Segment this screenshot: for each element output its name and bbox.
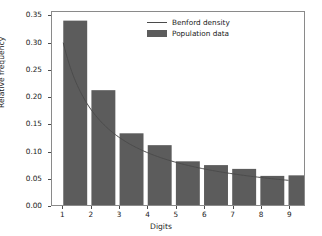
x-tick-label: 8: [259, 211, 264, 218]
x-tick-mark: [62, 206, 63, 209]
bar: [120, 133, 144, 205]
y-tick-label: 0.30: [8, 39, 42, 46]
benford-chart-figure: 0.000.050.100.150.200.250.300.35 1234567…: [0, 0, 322, 236]
bar: [91, 90, 115, 205]
y-tick-mark: [48, 15, 51, 16]
y-tick-label: 0.15: [8, 121, 42, 128]
y-tick-mark: [48, 206, 51, 207]
x-axis-label: Digits: [0, 222, 322, 231]
x-tick-label: 2: [88, 211, 93, 218]
chart-legend: Benford density Population data: [142, 13, 236, 43]
legend-label: Population data: [172, 30, 229, 37]
x-tick-label: 7: [230, 211, 235, 218]
bar: [260, 176, 284, 205]
y-tick-mark: [48, 152, 51, 153]
y-tick-label: 0.20: [8, 93, 42, 100]
legend-item-population-data: Population data: [147, 28, 230, 39]
y-tick-mark: [48, 179, 51, 180]
x-tick-label: 1: [60, 211, 65, 218]
x-tick-mark: [233, 206, 234, 209]
x-tick-label: 5: [174, 211, 179, 218]
y-tick-mark: [48, 97, 51, 98]
bar: [289, 175, 304, 205]
legend-line-swatch-icon: [147, 18, 167, 27]
y-tick-label: 0.35: [8, 12, 42, 19]
bar-series-population-data: [63, 21, 304, 205]
x-tick-mark: [91, 206, 92, 209]
bar: [176, 161, 200, 205]
y-tick-label: 0.25: [8, 66, 42, 73]
x-tick-mark: [119, 206, 120, 209]
y-tick-label: 0.05: [8, 175, 42, 182]
x-tick-mark: [204, 206, 205, 209]
x-tick-label: 3: [117, 211, 122, 218]
x-tick-label: 4: [145, 211, 150, 218]
x-tick-label: 9: [287, 211, 292, 218]
x-tick-mark: [147, 206, 148, 209]
y-axis-label: Relative frequency: [0, 37, 6, 108]
y-tick-label: 0.10: [8, 148, 42, 155]
y-tick-mark: [48, 43, 51, 44]
x-tick-mark: [261, 206, 262, 209]
y-tick-label: 0.00: [8, 202, 42, 209]
legend-label: Benford density: [172, 19, 230, 26]
y-tick-mark: [48, 70, 51, 71]
x-tick-mark: [289, 206, 290, 209]
x-tick-label: 6: [202, 211, 207, 218]
legend-patch-swatch-icon: [147, 30, 167, 37]
x-tick-mark: [176, 206, 177, 209]
legend-item-benford-density: Benford density: [147, 17, 230, 28]
bar: [63, 21, 87, 205]
y-tick-mark: [48, 124, 51, 125]
